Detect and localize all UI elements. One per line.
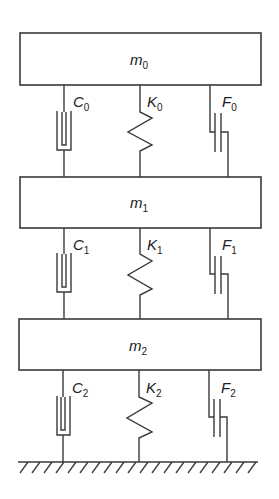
mass-block-m1: m1	[20, 177, 261, 228]
friction-label-f2: F2	[221, 379, 236, 399]
spring-k0: K0	[128, 85, 163, 177]
ground-hatch-icon	[18, 462, 258, 473]
mass-block-m2: m2	[19, 319, 261, 370]
friction-f0: F0	[210, 85, 237, 177]
friction-f1: F1	[210, 228, 237, 319]
spring-k2: K2	[127, 370, 162, 462]
friction-label-f1: F1	[222, 236, 237, 256]
spring-k1: K1	[128, 228, 163, 319]
damper-c2: C2	[57, 370, 89, 462]
spring-mass-diagram: m0 C0 K0 F0 m1 C1 K1	[0, 0, 279, 499]
damper-c1: C1	[57, 228, 90, 319]
spring-label-k0: K0	[147, 93, 163, 113]
spring-label-k2: K2	[146, 379, 162, 399]
mass-block-m0: m0	[20, 33, 261, 85]
friction-label-f0: F0	[222, 93, 237, 113]
spring-label-k1: K1	[147, 236, 163, 256]
damper-label-c0: C0	[73, 93, 90, 113]
damper-c0: C0	[57, 85, 90, 177]
damper-label-c2: C2	[72, 379, 89, 399]
damper-label-c1: C1	[73, 236, 90, 256]
friction-f2: F2	[209, 370, 236, 462]
